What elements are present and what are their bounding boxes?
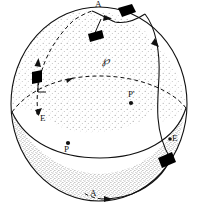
label-equator-left: E bbox=[40, 114, 46, 123]
label-equator-right: E bbox=[172, 134, 178, 143]
label-apex-top: A bbox=[95, 0, 102, 9]
label-point-front: P bbox=[64, 145, 69, 154]
region-label: ℘ bbox=[102, 55, 110, 66]
diagram-canvas bbox=[0, 0, 199, 210]
point-dot-p-prime bbox=[129, 101, 133, 105]
label-apex-bottom: A bbox=[90, 189, 97, 198]
sphere-diagram: ℘ A A E E P P' bbox=[0, 0, 199, 210]
tangent-frame-marker-upper-left bbox=[32, 70, 42, 84]
label-point-image: P' bbox=[128, 90, 135, 99]
